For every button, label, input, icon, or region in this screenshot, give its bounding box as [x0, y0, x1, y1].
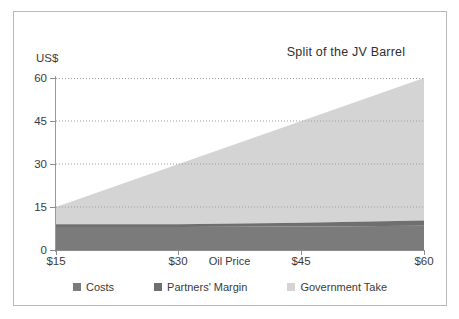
legend-label-partners-margin: Partners' Margin [167, 281, 247, 293]
legend-label-government-take: Government Take [300, 281, 387, 293]
y-tick-mark-45 [50, 121, 56, 122]
x-axis-title: Oil Price [0, 255, 459, 267]
y-axis-title: US$ [36, 52, 58, 64]
area-government-take [56, 78, 424, 224]
y-tick-label-15: 15 [17, 201, 47, 213]
chart-title: Split of the JV Barrel [246, 45, 446, 59]
y-tick-label-60: 60 [17, 72, 47, 84]
legend-swatch-costs-icon [73, 283, 81, 291]
y-tick-label-45: 45 [17, 115, 47, 127]
y-tick-mark-15 [50, 207, 56, 208]
plot-area [56, 78, 424, 250]
area-costs [56, 226, 424, 250]
legend-swatch-partners-margin-icon [154, 283, 162, 291]
legend-item-partners-margin[interactable]: Partners' Margin [154, 281, 247, 293]
chart-legend: Costs Partners' Margin Government Take [13, 281, 447, 293]
legend-item-government-take[interactable]: Government Take [287, 281, 387, 293]
legend-swatch-government-take-icon [287, 283, 295, 291]
legend-item-costs[interactable]: Costs [73, 281, 114, 293]
y-tick-mark-30 [50, 164, 56, 165]
y-tick-label-30: 30 [17, 158, 47, 170]
area-chart-svg [56, 78, 424, 250]
y-tick-mark-60 [50, 78, 56, 79]
x-axis-line [55, 250, 425, 251]
legend-label-costs: Costs [86, 281, 114, 293]
